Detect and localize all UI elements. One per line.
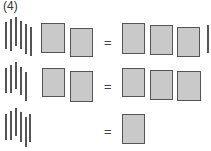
square-tile bbox=[150, 25, 173, 55]
stick bbox=[10, 111, 12, 140]
square-tile bbox=[122, 23, 145, 54]
stick bbox=[207, 25, 209, 53]
square-tile bbox=[122, 114, 145, 144]
square-tile bbox=[122, 68, 145, 97]
stick bbox=[20, 21, 22, 49]
stick bbox=[25, 72, 27, 101]
stick bbox=[10, 65, 12, 93]
square-tile bbox=[150, 70, 173, 100]
square-tile bbox=[177, 27, 200, 57]
equals-sign: = bbox=[104, 79, 112, 94]
equals-sign: = bbox=[104, 124, 112, 139]
stick bbox=[29, 114, 31, 142]
stick bbox=[25, 24, 27, 54]
square-tile bbox=[70, 28, 93, 57]
stick bbox=[25, 117, 27, 147]
equals-sign: = bbox=[104, 35, 112, 50]
square-tile bbox=[42, 68, 65, 97]
stick bbox=[15, 17, 17, 46]
stick bbox=[20, 112, 22, 142]
stick bbox=[20, 67, 22, 95]
stick bbox=[5, 22, 7, 49]
stick bbox=[5, 68, 7, 93]
problem-label: (4) bbox=[3, 0, 18, 13]
stick bbox=[10, 19, 12, 51]
stick bbox=[30, 27, 32, 56]
square-tile bbox=[70, 71, 93, 102]
stick bbox=[15, 108, 17, 136]
stick bbox=[5, 114, 7, 140]
stick bbox=[15, 62, 17, 89]
square-tile bbox=[177, 71, 201, 101]
square-tile bbox=[41, 23, 65, 53]
